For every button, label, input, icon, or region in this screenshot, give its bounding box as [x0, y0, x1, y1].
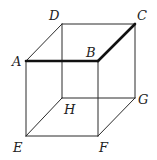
vertex-label-f: F — [98, 140, 109, 155]
cube-diagram: A B C D E F G H — [0, 0, 157, 160]
edge-b-c-highlighted — [98, 24, 135, 61]
vertex-label-c: C — [137, 8, 147, 23]
edge-e-h — [26, 98, 62, 136]
edge-a-d — [26, 24, 62, 61]
vertex-label-d: D — [48, 8, 60, 23]
vertex-label-e: E — [12, 140, 23, 155]
vertex-label-h: H — [63, 102, 76, 117]
edge-f-g — [98, 98, 135, 136]
vertex-label-b: B — [85, 45, 96, 60]
vertex-label-a: A — [11, 54, 21, 69]
vertex-label-g: G — [138, 92, 148, 107]
